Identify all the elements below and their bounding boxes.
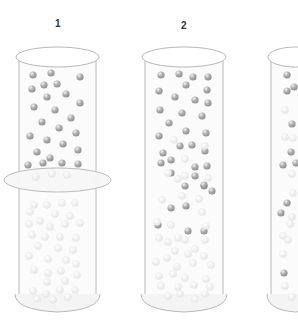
particle-dark <box>198 112 205 119</box>
particle-light <box>61 220 68 227</box>
particle-light <box>181 274 188 281</box>
particle-light <box>63 171 70 178</box>
particle-light <box>163 254 170 261</box>
particle-light <box>25 220 32 227</box>
particle-light <box>33 295 40 302</box>
particle-dark <box>47 69 54 76</box>
particle-light <box>49 296 56 303</box>
particle-light <box>43 201 50 208</box>
particle-dark <box>188 141 195 148</box>
particle-dark <box>38 118 45 125</box>
particle-light <box>46 223 53 230</box>
particle-light <box>158 196 165 203</box>
particle-dark <box>200 181 207 188</box>
particle-light <box>42 290 49 297</box>
particle-dark <box>167 204 174 211</box>
particle-light <box>30 266 37 273</box>
particle-light <box>284 236 291 243</box>
particle-dark <box>26 132 33 139</box>
particle-dark <box>39 159 46 166</box>
particle-light <box>206 283 213 290</box>
cylinder-base <box>141 294 227 312</box>
particle-light <box>281 106 288 113</box>
particle-light <box>174 234 181 241</box>
particle-light <box>73 271 80 278</box>
particle-dark <box>72 129 79 136</box>
particle-dark <box>55 124 62 131</box>
particle-light <box>200 252 207 259</box>
particle-light <box>155 234 162 241</box>
particle-dark <box>176 142 183 149</box>
particle-light <box>288 213 295 220</box>
particle-light <box>279 250 286 257</box>
particle-light <box>44 269 51 276</box>
particle-dark <box>175 70 182 77</box>
particle-dark <box>184 227 191 234</box>
particle-light <box>184 250 191 257</box>
particle-light <box>207 261 214 268</box>
particle-dark <box>189 73 196 80</box>
particle-light <box>61 277 68 284</box>
particle-light <box>173 263 180 270</box>
particle-dark <box>28 85 35 92</box>
particle-dark <box>40 81 47 88</box>
particle-dark <box>204 99 211 106</box>
particle-light <box>76 219 83 226</box>
particle-light <box>25 252 32 259</box>
particle-light <box>202 275 209 282</box>
particle-light <box>62 256 69 263</box>
particle-dark <box>208 187 215 194</box>
particle-light <box>178 192 185 199</box>
particle-light <box>72 260 79 267</box>
particle-dark <box>191 163 198 170</box>
particle-light <box>26 208 33 215</box>
particle-light <box>286 220 293 227</box>
particle-dark <box>43 136 50 143</box>
particle-dark <box>287 148 294 155</box>
particle-dark <box>74 160 81 167</box>
particle-light <box>167 221 174 228</box>
particle-light <box>174 283 181 290</box>
particle-light <box>202 222 209 229</box>
particle-dark <box>203 86 210 93</box>
particle-light <box>191 245 198 252</box>
particle-dark <box>24 161 31 168</box>
particle-light <box>204 174 211 181</box>
particle-dark <box>74 146 81 153</box>
particle-dark <box>182 202 189 209</box>
cylinder-top-opening <box>16 47 99 67</box>
particle-light <box>56 233 63 240</box>
particle-dark <box>283 87 290 94</box>
particle-dark <box>33 148 40 155</box>
particle-light <box>36 217 43 224</box>
particle-dark <box>43 93 50 100</box>
particle-dark <box>280 269 287 276</box>
particle-light <box>288 170 295 177</box>
particle-dark <box>279 161 286 168</box>
particle-light <box>289 134 296 141</box>
particle-light <box>198 208 205 215</box>
particle-dark <box>155 132 162 139</box>
particle-light <box>72 234 79 241</box>
particle-dark <box>46 154 53 161</box>
particle-light <box>164 238 171 245</box>
particle-light <box>58 199 65 206</box>
divider-ring <box>4 168 111 192</box>
particle-light <box>288 293 295 300</box>
particle-dark <box>283 199 290 206</box>
particle-light <box>71 286 78 293</box>
particle-dark <box>51 106 58 113</box>
particle-dark <box>182 127 189 134</box>
particle-light <box>201 236 208 243</box>
particle-light <box>176 290 183 297</box>
particle-light <box>48 170 55 177</box>
particle-dark <box>159 149 166 156</box>
particle-light <box>54 244 61 251</box>
particle-dark <box>59 140 66 147</box>
particle-dark <box>30 103 37 110</box>
particle-light <box>169 270 176 277</box>
particle-dark <box>203 162 210 169</box>
particle-dark <box>288 120 295 127</box>
particle-light <box>181 236 188 243</box>
particle-light <box>64 293 71 300</box>
